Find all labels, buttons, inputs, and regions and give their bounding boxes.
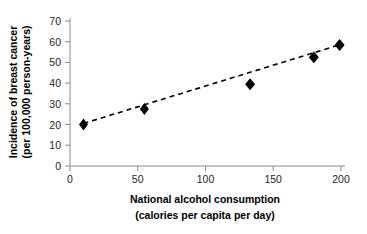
x-tick-label-50: 50 bbox=[132, 173, 144, 185]
data-point-marker bbox=[79, 119, 88, 131]
x-axis-title-line2: (calories per capita per day) bbox=[135, 209, 274, 221]
x-axis-title-line1: National alcohol consumption bbox=[130, 193, 280, 205]
y-axis-ticks bbox=[65, 21, 70, 166]
scatter-chart: 70 60 50 40 30 20 10 0 0 50 100 150 200 bbox=[0, 0, 367, 234]
y-tick-label-20: 20 bbox=[49, 119, 61, 131]
x-tick-labels: 0 50 100 150 200 bbox=[67, 173, 350, 185]
data-point-marker bbox=[335, 39, 345, 51]
chart-canvas: 70 60 50 40 30 20 10 0 0 50 100 150 200 bbox=[0, 0, 367, 234]
y-tick-label-0: 0 bbox=[55, 160, 61, 172]
y-axis-title: Incidence of breast cancer (per 100,000 … bbox=[7, 25, 32, 158]
y-axis-title-line2: (per 100,000 person-years) bbox=[20, 25, 32, 158]
trend-line bbox=[84, 45, 340, 124]
x-tick-label-100: 100 bbox=[197, 173, 215, 185]
x-tick-label-200: 200 bbox=[332, 173, 350, 185]
data-point-marker bbox=[245, 78, 255, 90]
y-tick-label-10: 10 bbox=[49, 139, 61, 151]
y-tick-label-70: 70 bbox=[49, 15, 61, 27]
y-tick-label-40: 40 bbox=[49, 77, 61, 89]
data-points bbox=[79, 39, 345, 131]
x-tick-label-150: 150 bbox=[264, 173, 282, 185]
y-tick-label-30: 30 bbox=[49, 98, 61, 110]
x-axis-title: National alcohol consumption (calories p… bbox=[130, 193, 280, 221]
x-tick-label-0: 0 bbox=[67, 173, 73, 185]
y-axis-title-line1: Incidence of breast cancer bbox=[7, 26, 19, 158]
y-tick-label-50: 50 bbox=[49, 56, 61, 68]
data-point-marker bbox=[140, 103, 149, 115]
y-tick-labels: 70 60 50 40 30 20 10 0 bbox=[49, 15, 61, 172]
x-axis-ticks bbox=[70, 166, 341, 171]
y-tick-label-60: 60 bbox=[49, 36, 61, 48]
